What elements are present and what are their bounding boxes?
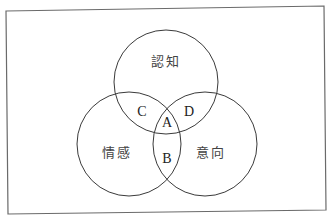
region-a: A xyxy=(162,115,173,130)
label-conation: 意向 xyxy=(196,145,226,160)
region-c: C xyxy=(137,104,146,119)
region-d: D xyxy=(184,104,194,119)
venn-diagram: 認知 情感 意向 A B C D xyxy=(0,0,330,220)
label-cognition: 認知 xyxy=(151,54,181,69)
circle-affect xyxy=(77,92,181,196)
circle-conation xyxy=(153,92,257,196)
label-affect: 情感 xyxy=(102,145,132,160)
region-b: B xyxy=(162,151,171,166)
